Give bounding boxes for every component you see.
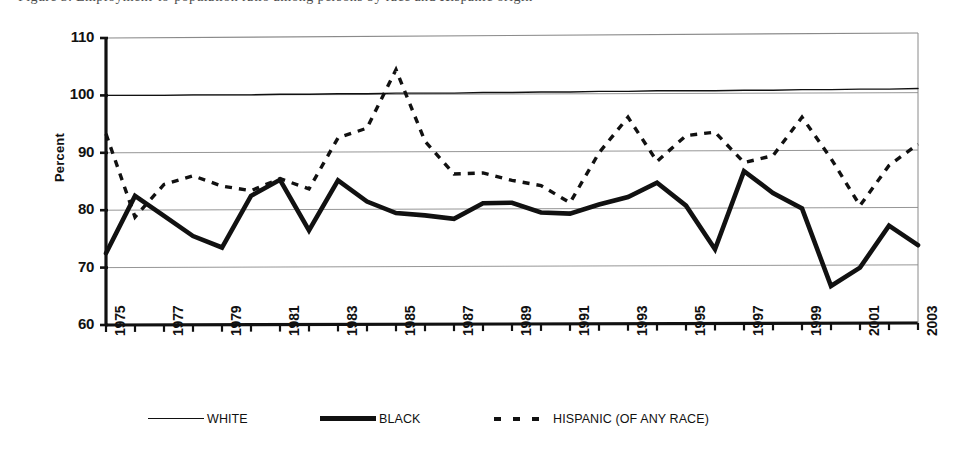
x-tick-label-2003: 2003 — [924, 306, 940, 336]
chart-legend: WHITE BLACK HISPANIC (OF ANY RACE) — [0, 404, 970, 434]
y-tick-label-100: 100 — [48, 85, 94, 102]
figure-container: Figure 3. Employment-to-population ratio… — [0, 0, 970, 455]
x-tick-label-1975: 1975 — [112, 306, 128, 336]
legend-label-black: BLACK — [379, 412, 421, 426]
legend-label-white: WHITE — [207, 412, 248, 426]
gridline-70 — [106, 265, 918, 268]
legend-label-hispanic: HISPANIC (OF ANY RACE) — [553, 412, 709, 426]
gridline-110 — [106, 33, 918, 38]
y-tick-label-70: 70 — [48, 258, 94, 275]
y-tick-label-90: 90 — [48, 143, 94, 160]
line-dashed-icon — [494, 412, 550, 426]
x-tick-label-1981: 1981 — [286, 306, 302, 336]
x-tick-label-1985: 1985 — [402, 306, 418, 336]
legend-item-hispanic[interactable]: HISPANIC (OF ANY RACE) — [494, 408, 709, 430]
x-tick-label-1991: 1991 — [576, 306, 592, 336]
x-tick-label-1989: 1989 — [518, 306, 534, 336]
legend-item-white[interactable]: WHITE — [148, 408, 248, 430]
x-tick-label-1979: 1979 — [228, 306, 244, 336]
y-tick-label-110: 110 — [48, 28, 94, 45]
y-tick-label-60: 60 — [48, 315, 94, 332]
line-thick-icon — [320, 412, 376, 426]
x-tick-label-1987: 1987 — [460, 306, 476, 336]
x-tick-label-2001: 2001 — [866, 306, 882, 336]
series-line-hispanic — [106, 70, 918, 218]
x-tick-label-1997: 1997 — [750, 306, 766, 336]
y-tick-label-80: 80 — [48, 200, 94, 217]
line-thin-icon — [148, 412, 204, 426]
gridline-90 — [106, 150, 918, 153]
legend-item-black[interactable]: BLACK — [320, 408, 421, 430]
x-tick-label-1983: 1983 — [344, 306, 360, 336]
x-tick-label-1995: 1995 — [692, 306, 708, 336]
x-tick-label-1993: 1993 — [634, 306, 650, 336]
x-tick-label-1999: 1999 — [808, 306, 824, 336]
x-tick-label-1977: 1977 — [170, 306, 186, 336]
line-chart-canvas — [0, 0, 970, 455]
